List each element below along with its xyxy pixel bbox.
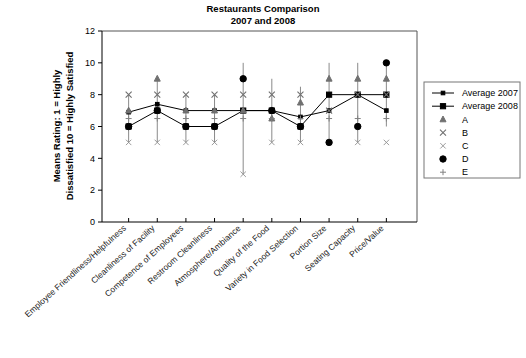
legend-marker-small-square — [441, 91, 445, 95]
chart-legend: Average 2007Average 2008ABCDE — [424, 82, 520, 178]
chart-subtitle: 2007 and 2008 — [231, 15, 295, 26]
marker-a-8 — [355, 75, 361, 81]
legend-label: B — [462, 128, 468, 138]
marker-c-9 — [384, 140, 389, 145]
restaurants-comparison-chart: Restaurants Comparison 2007 and 2008 Mea… — [0, 0, 526, 358]
marker-d-3 — [211, 123, 217, 129]
chart-container: Restaurants Comparison 2007 and 2008 Mea… — [0, 0, 526, 358]
legend-label: C — [462, 141, 469, 151]
marker-d-9 — [383, 60, 389, 66]
plot-axes: 024681012 — [85, 26, 417, 227]
marker-average-2007-9 — [385, 109, 389, 113]
y-tick-label: 4 — [90, 154, 95, 164]
y-axis-label: Means Rating: 1 = Highly Dissatisfied 10… — [51, 51, 75, 200]
series-markers — [125, 60, 389, 177]
series-lines — [129, 95, 387, 127]
marker-average-2008-7 — [326, 92, 331, 97]
chart-title: Restaurants Comparison — [207, 3, 320, 14]
y-tick-label: 2 — [90, 185, 95, 195]
marker-e-9 — [383, 116, 389, 122]
value-range-whiskers — [129, 63, 387, 174]
marker-d-6 — [297, 123, 303, 129]
marker-average-2007-1 — [155, 102, 159, 106]
marker-d-5 — [269, 107, 275, 113]
marker-a-6 — [297, 99, 303, 105]
legend-marker-square — [440, 104, 445, 109]
y-axis-label-line1: Means Rating: 1 = Highly — [51, 69, 62, 182]
marker-a-1 — [154, 75, 160, 81]
marker-a-7 — [326, 75, 332, 81]
y-tick-label: 12 — [85, 26, 95, 36]
x-axis-category-labels: Employee Friendliness/HelpfulnessCleanli… — [23, 223, 386, 320]
legend-label: Average 2007 — [462, 88, 518, 98]
marker-d-0 — [125, 123, 131, 129]
legend-label: E — [462, 167, 468, 177]
legend-label: A — [462, 115, 468, 125]
marker-e-4 — [240, 116, 246, 122]
y-tick-label: 6 — [90, 122, 95, 132]
y-tick-label: 8 — [90, 90, 95, 100]
legend-label: Average 2008 — [462, 101, 518, 111]
marker-e-3 — [212, 116, 218, 122]
x-category-label: Seating Capacity — [303, 223, 358, 274]
marker-e-8 — [355, 116, 361, 122]
y-tick-label: 10 — [85, 58, 95, 68]
marker-e-7 — [326, 116, 332, 122]
marker-a-9 — [383, 75, 389, 81]
marker-d-8 — [355, 123, 361, 129]
legend-label: D — [462, 154, 469, 164]
marker-d-7 — [326, 139, 332, 145]
legend-marker-circle — [440, 156, 446, 162]
y-tick-label: 0 — [90, 217, 95, 227]
marker-d-1 — [154, 107, 160, 113]
marker-d-2 — [183, 123, 189, 129]
series-line-average-2008 — [129, 95, 387, 127]
marker-e-1 — [154, 116, 160, 122]
marker-e-2 — [183, 116, 189, 122]
series-line-average-2007 — [129, 95, 387, 117]
marker-d-4 — [240, 76, 246, 82]
x-category-label: Employee Friendliness/Helpfulness — [23, 223, 128, 319]
marker-e-0 — [126, 116, 132, 122]
y-axis-label-line2: Dissatisfied 10 = Highly Satisfied — [64, 51, 75, 200]
